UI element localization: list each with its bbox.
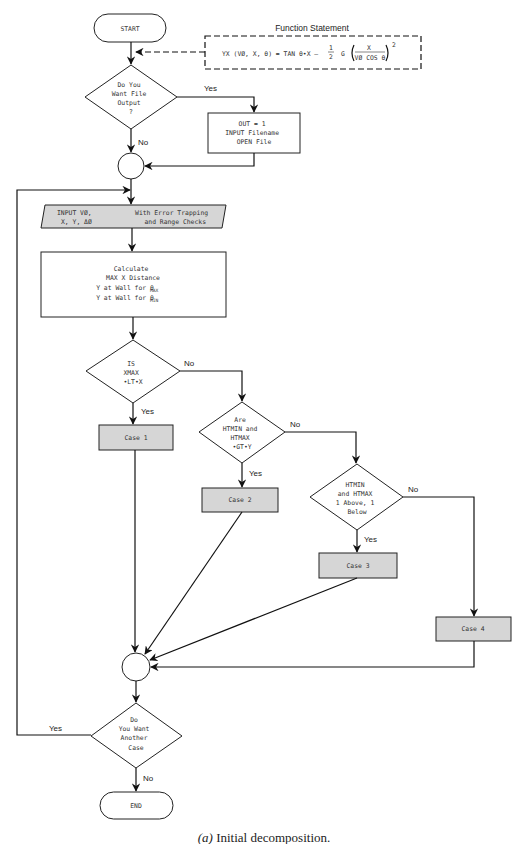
formula-lhs: YX (VØ, X, θ) = TAN θ•X – bbox=[222, 50, 318, 58]
formula-frac-den: VØ COS θ bbox=[355, 54, 386, 62]
function-statement: Function Statement YX (VØ, X, θ) = TAN θ… bbox=[205, 23, 421, 69]
case-3-box: Case 3 bbox=[319, 553, 397, 578]
svg-text:Case 4: Case 4 bbox=[461, 625, 484, 633]
formula-half-den: 2 bbox=[329, 53, 333, 61]
formula-g: G bbox=[341, 50, 345, 58]
file-no-label: No bbox=[138, 138, 149, 147]
svg-text:END: END bbox=[130, 802, 142, 810]
another-yes-label: Yes bbox=[49, 724, 62, 733]
start-terminal: START bbox=[94, 14, 166, 42]
decision-another-case: Do You Want Another Case bbox=[91, 703, 182, 768]
above-yes-label: Yes bbox=[364, 535, 377, 544]
flowchart: START Function Statement YX (VØ, X, θ) =… bbox=[0, 0, 528, 844]
input-parallelogram: INPUT VØ, X, Y, ΔØ With Error Trapping a… bbox=[41, 205, 226, 228]
calculate-box: Calculate MAX X Distance Y at Wall for θ… bbox=[41, 252, 226, 317]
decision-one-above-one-below: HTMIN and HTMAX 1 Above, 1 Below bbox=[310, 464, 403, 530]
case-2-box: Case 2 bbox=[202, 488, 278, 512]
svg-text:Y at Wall for θ: Y at Wall for θ bbox=[96, 284, 154, 292]
svg-text:Case 2: Case 2 bbox=[228, 496, 251, 504]
svg-text:Calculate MAX X Distance: Calculate MAX X Distance bbox=[106, 265, 160, 282]
connector-2 bbox=[122, 653, 150, 681]
file-yes-label: Yes bbox=[204, 84, 217, 93]
formula-frac-num: X bbox=[367, 44, 371, 52]
htmin-no-label: No bbox=[290, 420, 301, 429]
end-terminal: END bbox=[100, 792, 173, 819]
case-1-box: Case 1 bbox=[99, 425, 173, 450]
xmax-yes-label: Yes bbox=[141, 407, 154, 416]
decision-xmax: IS XMAX •LT•X bbox=[86, 340, 180, 403]
another-no-label: No bbox=[143, 774, 154, 783]
xmax-no-label: No bbox=[184, 359, 195, 368]
svg-text:MIN: MIN bbox=[150, 298, 159, 303]
htmin-yes-label: Yes bbox=[249, 469, 262, 478]
svg-text:With Error Trapping and: With Error Trapping and Range Checks bbox=[135, 209, 212, 226]
formula-half-num: 1 bbox=[329, 44, 333, 52]
formula-exponent: 2 bbox=[392, 41, 396, 49]
out-process-box: OUT = 1 INPUT Filename OPEN File bbox=[208, 113, 300, 153]
svg-text:Case 1: Case 1 bbox=[124, 434, 147, 442]
decision-htmin-htmax-gt: Are HTMIN and HTMAX •GT•Y bbox=[199, 402, 285, 463]
above-no-label: No bbox=[408, 485, 419, 494]
svg-text:MAX: MAX bbox=[150, 288, 159, 293]
connector-1 bbox=[118, 153, 144, 179]
figure-caption: (a) Initial decomposition. bbox=[198, 830, 331, 844]
function-statement-title: Function Statement bbox=[275, 23, 349, 33]
svg-text:Case 3: Case 3 bbox=[346, 562, 369, 570]
case-4-box: Case 4 bbox=[436, 617, 511, 641]
decision-file-output: Do You Want File Output ? bbox=[85, 65, 177, 129]
start-label: START bbox=[120, 25, 139, 33]
svg-text:INPUT VØ, X, Y, ΔØ: INPUT VØ, X, Y, ΔØ bbox=[57, 209, 96, 226]
svg-text:Y at Wall for θ: Y at Wall for θ bbox=[96, 294, 154, 302]
